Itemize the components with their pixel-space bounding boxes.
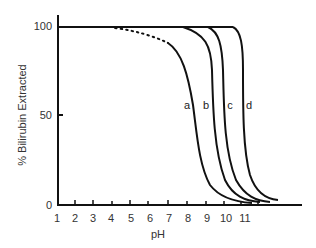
svg-text:1: 1	[54, 212, 60, 224]
svg-text:4: 4	[108, 212, 114, 224]
y-tick-label-0: 0	[46, 199, 52, 211]
x-axis-label: pH	[151, 228, 165, 240]
curve-c	[208, 27, 270, 202]
svg-text:2: 2	[72, 212, 78, 224]
curve-label-d: d	[246, 99, 252, 111]
y-tick-label-100: 100	[34, 20, 52, 32]
curve-a	[168, 43, 252, 203]
chart: 100 50 0 1 2 3 4 5 6 7 8 9 10 11 pH % Bi…	[0, 0, 316, 248]
svg-text:7: 7	[166, 212, 172, 224]
svg-text:3: 3	[90, 212, 96, 224]
svg-text:5: 5	[128, 212, 134, 224]
y-axis-label: % Bilirubin Extracted	[16, 64, 28, 166]
svg-text:6: 6	[147, 212, 153, 224]
curve-d	[233, 27, 278, 200]
curve-a-dotted	[115, 28, 168, 43]
svg-text:9: 9	[204, 212, 210, 224]
curve-label-b: b	[203, 99, 209, 111]
x-tick-labels: 1 2 3 4 5 6 7 8 9 10 11	[54, 212, 251, 224]
curve-label-a: a	[184, 99, 191, 111]
svg-text:8: 8	[185, 212, 191, 224]
svg-text:11: 11	[239, 212, 250, 224]
svg-text:10: 10	[220, 212, 232, 224]
curve-label-c: c	[227, 99, 233, 111]
y-tick-label-50: 50	[40, 109, 52, 121]
